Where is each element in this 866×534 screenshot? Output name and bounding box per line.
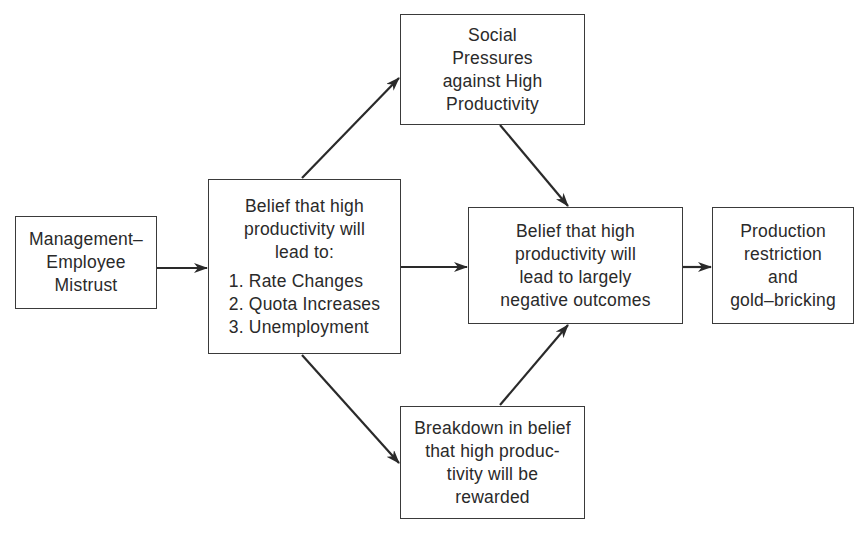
node-production-restriction: Production restriction and gold–bricking [712, 207, 854, 324]
node-text: Belief that high [245, 195, 364, 218]
outcomes-list: 1. Rate Changes 2. Quota Increases 3. Un… [229, 270, 380, 339]
node-text: Management– [29, 228, 143, 251]
arrow-belief-to-social [302, 78, 399, 178]
node-text: Breakdown in belief [414, 417, 571, 440]
node-text: gold–bricking [730, 289, 836, 312]
node-text: Mistrust [55, 274, 118, 297]
node-text: that high produc- [425, 440, 560, 463]
node-text: against High [443, 70, 543, 93]
node-management-employee-mistrust: Management– Employee Mistrust [15, 216, 157, 309]
node-text: tivity will be [447, 463, 538, 486]
list-item: 3. Unemployment [229, 316, 380, 339]
node-text: Employee [46, 251, 125, 274]
node-text: Productivity [446, 93, 539, 116]
node-text: restriction [744, 243, 822, 266]
node-text: Social [468, 24, 517, 47]
arrow-breakdown-to-negative [500, 325, 568, 405]
node-text: lead to: [275, 241, 334, 264]
node-text: negative outcomes [500, 289, 650, 312]
node-text: and [768, 266, 798, 289]
node-text: productivity will [244, 218, 365, 241]
node-text: Belief that high [516, 220, 635, 243]
node-text: productivity will [515, 243, 636, 266]
node-breakdown-in-belief: Breakdown in belief that high produc- ti… [400, 406, 585, 519]
arrow-social-to-negative [500, 125, 568, 206]
arrow-belief-to-breakdown [302, 355, 399, 463]
node-social-pressures: Social Pressures against High Productivi… [400, 14, 585, 125]
node-belief-negative-outcomes: Belief that high productivity will lead … [468, 207, 683, 324]
node-belief-lead-to: Belief that high productivity will lead … [208, 179, 401, 354]
node-text: rewarded [455, 486, 530, 509]
node-text: lead to largely [520, 266, 632, 289]
node-text: Pressures [452, 47, 533, 70]
list-item: 1. Rate Changes [229, 270, 380, 293]
list-item: 2. Quota Increases [229, 293, 380, 316]
node-text: Production [740, 220, 826, 243]
